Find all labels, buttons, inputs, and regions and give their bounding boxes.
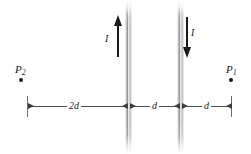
- left-current-arrow-head: [114, 15, 122, 26]
- dim-2d-arrow-start: [28, 103, 34, 109]
- point-p1-label-base: P: [226, 63, 233, 75]
- left-wire: [125, 0, 132, 154]
- point-p2-label-subscript: 2: [22, 69, 26, 77]
- physics-figure-two-wires: I I P2 P1 2d d d: [0, 0, 251, 154]
- right-current-label: I: [191, 28, 194, 38]
- dim-d-middle-label: d: [150, 101, 159, 111]
- point-p1-marker: [229, 78, 233, 82]
- dim-d-middle-arrow-end: [174, 103, 180, 109]
- point-p1-label: P1: [226, 64, 236, 75]
- dim-2d-arrow-end: [122, 103, 128, 109]
- point-p1-label-subscript: 1: [233, 69, 237, 77]
- point-p2-label-base: P: [15, 63, 22, 75]
- right-current-arrow-shaft: [186, 17, 187, 48]
- dim-d-middle-arrow-start: [130, 103, 136, 109]
- left-current-arrow-shaft: [117, 26, 118, 57]
- left-current-label: I: [105, 34, 108, 44]
- dim-d-right-arrow-start: [182, 103, 188, 109]
- right-wire: [177, 0, 184, 154]
- dim-2d-label: 2d: [67, 101, 81, 111]
- dim-d-right-label: d: [202, 101, 211, 111]
- point-p2-marker: [19, 78, 23, 82]
- point-p2-label: P2: [15, 64, 25, 75]
- right-current-arrow-head: [183, 47, 191, 58]
- dim-d-right-arrow-end: [226, 103, 232, 109]
